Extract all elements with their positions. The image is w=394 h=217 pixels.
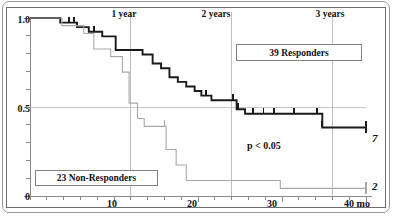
x-axis-label-40: 40 mo [336, 199, 378, 209]
legend-responders: 39 Responders [236, 44, 362, 61]
marker-label-2-years: 2 years [190, 10, 242, 20]
legend-responders-label: 39 Responders [269, 48, 328, 58]
at-risk-label-responders: 7 [372, 133, 378, 144]
at-risk-label-non-responders: 2 [372, 181, 378, 192]
legend-non-responders: 23 Non-Responders [35, 170, 158, 186]
y-axis-label-0: 0 [8, 192, 30, 202]
x-axis-label-30: 30 [260, 199, 284, 209]
y-axis-label-0-5: 0.5 [8, 104, 30, 114]
x-axis-label-20: 20 [180, 199, 204, 209]
curve-responders [30, 18, 366, 127]
y-axis-label-1: 1.0 [8, 15, 30, 25]
marker-label-1-year: 1 year [100, 10, 148, 20]
marker-label-3-years: 3 years [303, 10, 357, 20]
kaplan-meier-figure: 1.0 0.5 0 10 20 30 40 mo 1 year 2 years … [0, 0, 394, 217]
legend-non-responders-label: 23 Non-Responders [57, 173, 136, 183]
p-value-annotation: p < 0.05 [247, 141, 281, 151]
x-axis-label-10: 10 [100, 199, 124, 209]
